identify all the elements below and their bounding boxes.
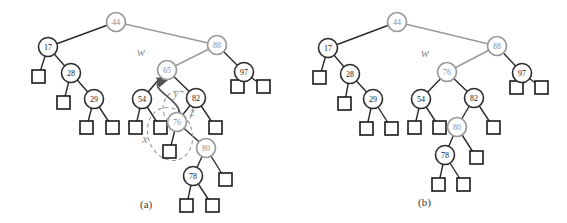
node-key-label: 80: [202, 144, 210, 153]
leaf-node: [408, 121, 421, 134]
node-key-label: 17: [44, 43, 52, 52]
panel-b-nodes: 4417882876972954828078: [319, 13, 532, 165]
tree-node-76: 76: [168, 113, 187, 132]
tree-node-76: 76: [438, 63, 457, 82]
leaf-node: [180, 199, 193, 212]
tree-node-80: 80: [197, 139, 216, 158]
pointer-label-w: w: [421, 46, 429, 60]
pointer-label-w: w: [137, 45, 145, 59]
leaf-node: [163, 145, 176, 158]
tree-node-88: 88: [488, 37, 507, 56]
leaf-node: [338, 97, 351, 110]
tree-node-17: 17: [39, 38, 58, 57]
panel-b-pointer-labels: w: [421, 46, 429, 60]
leaf-node: [457, 178, 470, 191]
leaf-node: [154, 121, 167, 134]
leaf-node: [32, 70, 45, 83]
tree-node-82: 82: [465, 89, 484, 108]
node-key-label: 65: [163, 66, 171, 75]
pointer-label-x: x: [141, 132, 148, 146]
panel-a-caption: (a): [140, 198, 152, 210]
leaf-node: [57, 96, 70, 109]
leaf-node: [206, 199, 219, 212]
tree-node-80: 80: [448, 118, 467, 137]
leaf-node: [209, 121, 222, 134]
pointer-label-y: y: [172, 86, 179, 100]
node-key-label: 82: [470, 94, 478, 103]
leaf-node: [535, 81, 548, 94]
tree-node-28: 28: [62, 64, 81, 83]
node-key-label: 28: [67, 69, 75, 78]
tree-node-97: 97: [235, 63, 254, 82]
leaf-node: [257, 80, 270, 93]
node-key-label: 80: [453, 123, 461, 132]
node-key-label: 54: [138, 95, 146, 104]
tree-node-65: 65: [158, 61, 177, 80]
leaf-node: [106, 121, 119, 134]
tree-node-44: 44: [107, 13, 126, 32]
node-key-label: 88: [213, 41, 221, 50]
node-key-label: 76: [443, 68, 451, 77]
node-key-label: 76: [173, 118, 181, 127]
node-key-label: 29: [369, 95, 377, 104]
tree-node-29: 29: [364, 90, 383, 109]
tree-node-29: 29: [85, 90, 104, 109]
leaf-node: [433, 121, 446, 134]
leaf-node: [385, 122, 398, 135]
tree-node-78: 78: [436, 146, 455, 165]
node-key-label: 97: [240, 68, 248, 77]
tree-node-17: 17: [319, 39, 338, 58]
panel-a-leaves: [32, 70, 270, 212]
panel-b-edges: [320, 22, 542, 185]
node-key-label: 28: [346, 70, 354, 79]
tree-diagram-svg: 441788286597295482768078 441788287697295…: [0, 0, 567, 223]
tree-node-97: 97: [513, 64, 532, 83]
node-key-label: 44: [393, 18, 401, 27]
node-key-label: 82: [192, 94, 200, 103]
panel-b-caption: (b): [418, 196, 431, 208]
tree-node-78: 78: [184, 167, 203, 186]
leaf-node: [313, 71, 326, 84]
tree-node-54: 54: [412, 90, 431, 109]
leaf-node: [470, 151, 483, 164]
figure-canvas: 441788286597295482768078 441788287697295…: [0, 0, 567, 223]
tree-node-44: 44: [388, 13, 407, 32]
node-key-label: 17: [324, 44, 332, 53]
node-key-label: 97: [518, 69, 526, 78]
node-key-label: 78: [189, 172, 197, 181]
leaf-node: [129, 121, 142, 134]
leaf-node: [360, 122, 373, 135]
node-key-label: 54: [417, 95, 425, 104]
leaf-node: [219, 173, 232, 186]
node-key-label: 88: [493, 42, 501, 51]
node-key-label: 29: [90, 95, 98, 104]
leaf-node: [80, 121, 93, 134]
tree-node-88: 88: [208, 36, 227, 55]
pointer-label-z: z: [189, 105, 195, 119]
leaf-node: [487, 121, 500, 134]
leaf-node: [432, 178, 445, 191]
node-key-label: 78: [441, 151, 449, 160]
tree-node-28: 28: [341, 65, 360, 84]
node-key-label: 44: [112, 18, 120, 27]
tree-node-54: 54: [133, 90, 152, 109]
